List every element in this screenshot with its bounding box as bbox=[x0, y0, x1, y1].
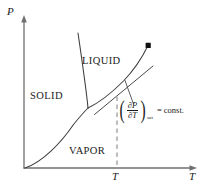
region-label-vapor: VAPOR bbox=[69, 146, 105, 157]
critical-point-marker bbox=[146, 43, 151, 48]
region-label-liquid: LIQUID bbox=[82, 56, 121, 67]
fusion-curve bbox=[78, 33, 88, 108]
region-label-solid: SOLID bbox=[30, 91, 63, 102]
x-axis-tick-label: T bbox=[112, 171, 118, 182]
derivative-numerator: ∂P bbox=[127, 101, 138, 110]
y-axis-label: P bbox=[7, 6, 14, 17]
equals-const-text: = const. bbox=[153, 105, 184, 115]
derivative-subscript: sat bbox=[147, 115, 153, 121]
sublimation-curve bbox=[25, 108, 88, 168]
derivative-denominator: ∂T bbox=[127, 110, 138, 120]
phase-diagram-figure: P T T SOLID LIQUID VAPOR ( ∂P ∂T ) sat =… bbox=[0, 0, 204, 193]
partial-derivative-fraction: ∂P ∂T bbox=[126, 101, 138, 120]
y-axis-arrowhead bbox=[21, 15, 27, 23]
derivative-annotation: ( ∂P ∂T ) sat = const. bbox=[118, 100, 184, 121]
left-paren: ( bbox=[120, 100, 125, 121]
x-axis-label: T bbox=[189, 171, 195, 182]
right-paren: ) bbox=[140, 100, 145, 121]
